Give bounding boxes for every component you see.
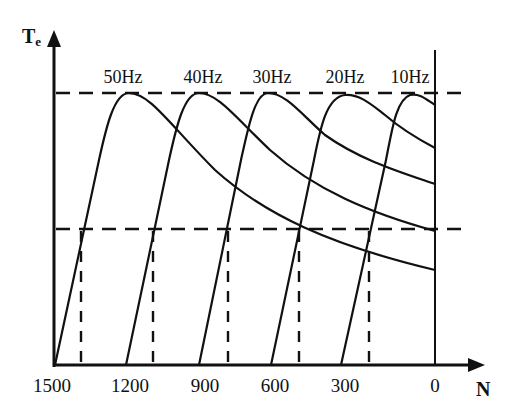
x-tick-label: 1200 xyxy=(111,375,149,396)
x-tick-label: 300 xyxy=(331,375,360,396)
y-axis-label: Te xyxy=(22,25,41,49)
freq-label-50hz: 50Hz xyxy=(104,67,143,87)
torque-speed-chart: Te N 1500 1200 900 600 300 0 50Hz 40Hz 3… xyxy=(0,0,515,412)
x-axis-label: N xyxy=(476,378,491,400)
freq-label-40hz: 40Hz xyxy=(184,67,223,87)
freq-label-10hz: 10Hz xyxy=(391,67,430,87)
x-tick-label: 900 xyxy=(191,375,220,396)
x-tick-label: 1500 xyxy=(33,375,71,396)
x-tick-label: 600 xyxy=(261,375,290,396)
y-axis-arrow-icon xyxy=(47,30,61,47)
freq-label-30hz: 30Hz xyxy=(253,67,292,87)
x-tick-label: 0 xyxy=(430,375,440,396)
x-axis-arrow-icon xyxy=(468,358,485,372)
freq-label-20hz: 20Hz xyxy=(326,67,365,87)
